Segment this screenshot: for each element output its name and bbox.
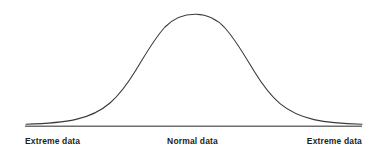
axis-label-right-extreme-data: Extreme data: [0, 136, 362, 147]
bell-curve-path: [26, 14, 362, 124]
axis-label-group: Extreme data Normal data Extreme data: [0, 136, 385, 156]
bell-curve-figure: Extreme data Normal data Extreme data: [0, 0, 385, 162]
